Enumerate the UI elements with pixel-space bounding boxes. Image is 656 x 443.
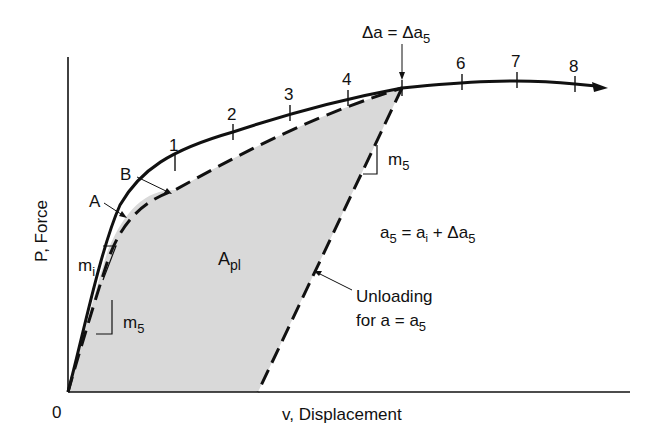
delta-a-label: Δa = Δa5 bbox=[362, 23, 430, 46]
slope-label-mi: mi bbox=[78, 256, 95, 279]
crack-length-equation: a5 = ai + Δa5 bbox=[380, 223, 475, 246]
tick-label-1: 1 bbox=[169, 136, 178, 155]
curve-label-a: A bbox=[89, 192, 101, 211]
unloading-label-line2: for a = a5 bbox=[356, 311, 426, 334]
curve-label-b: B bbox=[120, 165, 131, 184]
curve-arrowhead bbox=[592, 82, 608, 92]
slope-label-m5-upper: m5 bbox=[388, 150, 409, 173]
label-b-leader bbox=[137, 177, 168, 192]
tick-label-4: 4 bbox=[342, 70, 351, 89]
unloading-leader bbox=[318, 273, 352, 290]
tick-label-3: 3 bbox=[284, 85, 293, 104]
delta-a-arrowhead bbox=[399, 72, 405, 80]
x-axis-label: v, Displacement bbox=[282, 405, 402, 424]
unloading-label-line1: Unloading bbox=[356, 287, 433, 306]
tick-label-8: 8 bbox=[569, 57, 578, 76]
tick-label-7: 7 bbox=[511, 52, 520, 71]
diagram-canvas: 1 2 3 4 6 7 8 Δa = Δa5 A B mi m5 m5 Apl … bbox=[0, 0, 656, 443]
y-axis-label: P, Force bbox=[32, 200, 51, 262]
origin-label: 0 bbox=[52, 403, 61, 422]
tick-label-2: 2 bbox=[227, 105, 236, 124]
label-a-arrowhead bbox=[119, 211, 127, 218]
tick-label-6: 6 bbox=[456, 54, 465, 73]
plastic-area-fill bbox=[68, 88, 402, 392]
